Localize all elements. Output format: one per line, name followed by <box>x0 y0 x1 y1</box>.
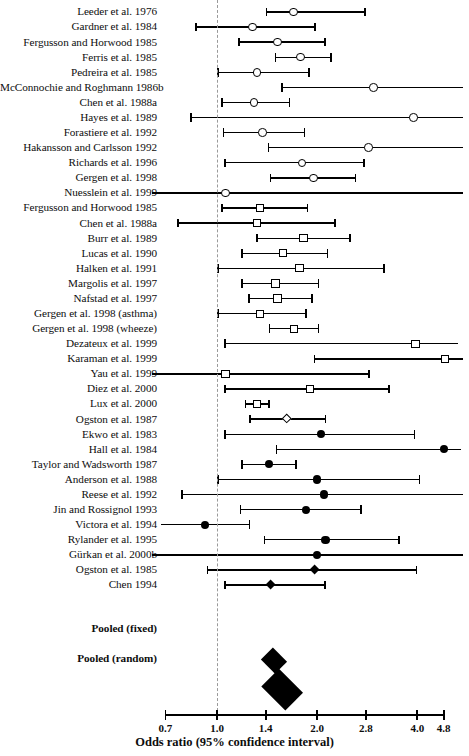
study-row-label: Gardner et al. 1984 <box>0 21 157 32</box>
ci-lower-cap <box>266 8 268 17</box>
x-axis-tick <box>416 710 418 721</box>
ci-upper-cap <box>349 234 351 243</box>
confidence-interval-line <box>152 373 370 374</box>
confidence-interval-line <box>224 343 458 344</box>
ci-upper-cap <box>318 279 320 288</box>
ci-upper-cap <box>416 566 418 575</box>
study-row-label: Rylander et al. 1995 <box>0 534 157 545</box>
ci-upper-cap <box>318 324 320 333</box>
ci-lower-cap <box>224 581 226 590</box>
open-square-marker <box>221 370 229 378</box>
study-row-label: Dezateux et al. 1999 <box>0 338 157 349</box>
axis-title: Odds ratio (95% confidence interval) <box>0 735 469 750</box>
study-row-label: Lux et al. 2000 <box>0 398 157 409</box>
x-axis-tick-label: 0.7 <box>145 722 185 734</box>
study-row-label: Gergen et al. 1998 (wheeze) <box>0 323 157 334</box>
open-square-marker <box>256 310 264 318</box>
ci-lower-cap <box>245 400 247 409</box>
ci-lower-cap <box>195 23 197 32</box>
open-circle-marker <box>409 113 418 122</box>
ci-lower-cap <box>270 174 272 183</box>
ci-upper-cap <box>305 309 307 318</box>
ci-upper-cap <box>314 23 316 32</box>
ci-lower-cap <box>269 324 271 333</box>
open-square-marker <box>306 385 314 393</box>
ci-lower-cap <box>268 143 270 152</box>
filled-diamond-marker <box>266 580 276 590</box>
ci-lower-cap <box>264 536 266 545</box>
x-axis-tick <box>443 710 445 721</box>
ci-upper-cap <box>268 400 270 409</box>
ci-upper-cap <box>364 8 366 17</box>
study-row-label: Burr et al. 1989 <box>0 233 157 244</box>
x-axis-tick-label: 1.4 <box>246 722 286 734</box>
study-row-label: Lucas et al. 1990 <box>0 248 157 259</box>
open-circle-marker <box>369 83 378 92</box>
study-row-label: Richards et al. 1996 <box>0 157 157 168</box>
ci-upper-cap <box>414 430 416 439</box>
ci-lower-cap <box>221 98 223 107</box>
study-row-label: Anderson et al. 1988 <box>0 474 157 485</box>
filled-circle-marker <box>302 506 310 514</box>
open-square-marker <box>253 400 261 408</box>
x-axis-tick <box>165 710 167 721</box>
ci-lower-cap <box>181 490 183 499</box>
x-axis-tick-label: 2.0 <box>297 722 337 734</box>
pooled-diamond <box>261 647 287 673</box>
open-circle-marker <box>221 189 230 198</box>
ci-upper-cap <box>398 536 400 545</box>
ci-upper-cap <box>388 385 390 394</box>
ci-upper-cap <box>311 294 313 303</box>
open-square-marker <box>271 279 279 287</box>
x-axis-tick <box>216 710 218 721</box>
filled-circle-marker <box>201 521 209 529</box>
open-circle-marker <box>298 159 307 168</box>
study-row-label: Hayes et al. 1989 <box>0 112 157 123</box>
ci-lower-cap <box>224 339 226 348</box>
study-row-label: Fergusson and Horwood 1985 <box>0 202 157 213</box>
ci-lower-cap <box>221 204 223 213</box>
study-row-label: Taylor and Wadsworth 1987 <box>0 459 157 470</box>
ci-lower-cap <box>223 128 225 137</box>
ci-upper-cap <box>324 38 326 47</box>
x-axis-tick-label: 2.8 <box>346 722 386 734</box>
confidence-interval-line <box>190 117 463 118</box>
ci-upper-cap <box>289 98 291 107</box>
confidence-interval-line <box>152 192 463 193</box>
filled-circle-marker <box>313 475 321 483</box>
study-row-label: Gergen et al. 1998 (asthma) <box>0 308 157 319</box>
open-square-marker <box>253 219 261 227</box>
ci-lower-cap <box>241 249 243 258</box>
study-row-label: Pedreira et al. 1985 <box>0 67 157 78</box>
ci-lower-cap <box>314 355 316 364</box>
ci-lower-cap <box>240 505 242 514</box>
filled-circle-marker <box>440 445 448 453</box>
x-axis-tick <box>265 710 267 721</box>
open-square-marker <box>290 325 298 333</box>
ci-lower-cap <box>241 460 243 469</box>
ci-upper-cap <box>327 249 329 258</box>
ci-upper-cap <box>295 460 297 469</box>
study-row-label: Diez et al. 2000 <box>0 383 157 394</box>
study-row-label: Leeder et al. 1976 <box>0 6 157 17</box>
ci-lower-cap <box>224 159 226 168</box>
open-square-marker <box>441 355 449 363</box>
ci-upper-cap <box>360 505 362 514</box>
filled-circle-marker <box>317 430 325 438</box>
study-row-label: Margolis et al. 1997 <box>0 278 157 289</box>
x-axis-tick <box>365 710 367 721</box>
filled-circle-marker <box>320 490 328 498</box>
ci-upper-cap <box>363 159 365 168</box>
open-circle-marker <box>248 23 257 32</box>
open-circle-marker <box>258 128 267 137</box>
ci-lower-cap <box>276 445 278 454</box>
confidence-interval-line <box>217 72 310 73</box>
ci-upper-cap <box>308 68 310 77</box>
study-row-label: Yau et al. 1999 <box>0 368 157 379</box>
open-square-marker <box>299 234 307 242</box>
open-square-marker <box>411 340 419 348</box>
ci-lower-cap <box>249 415 251 424</box>
study-row-label: Chen et al. 1988a <box>0 218 157 229</box>
study-row-label: Gürkan et al. 2000b <box>0 549 157 560</box>
open-circle-marker <box>309 174 318 183</box>
